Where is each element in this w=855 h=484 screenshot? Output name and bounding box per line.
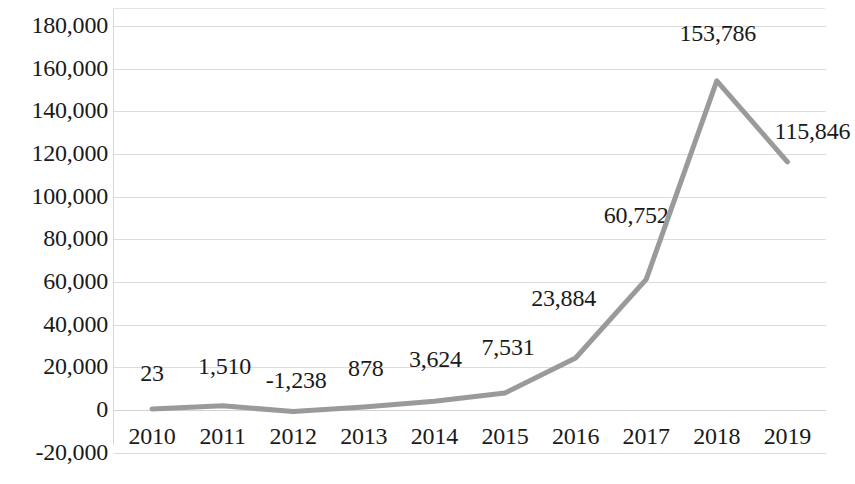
gridline: [114, 239, 826, 240]
y-axis-tick-label: -20,000: [4, 440, 108, 464]
gridline: [114, 69, 826, 70]
x-axis-tick-label: 2019: [742, 424, 832, 448]
data-point-label: 115,846: [742, 119, 855, 143]
data-point-label: 153,786: [648, 21, 788, 45]
y-axis-tick-label: 120,000: [4, 141, 108, 165]
y-axis-tick-label: 40,000: [4, 312, 108, 336]
y-axis-tick-label: 80,000: [4, 226, 108, 250]
gridline: [114, 453, 826, 454]
data-point-label: 7,531: [438, 335, 578, 359]
y-axis: 180,000160,000140,000120,000100,00080,00…: [0, 0, 108, 484]
gridline: [114, 154, 826, 155]
y-axis-tick-label: 180,000: [4, 13, 108, 37]
data-point-label: 23,884: [494, 286, 634, 310]
y-axis-tick-label: 140,000: [4, 98, 108, 122]
gridline: [114, 325, 826, 326]
gridline: [114, 197, 826, 198]
y-axis-tick-label: 60,000: [4, 269, 108, 293]
gridline: [114, 111, 826, 112]
gridline: [114, 282, 826, 283]
data-point-label: 60,752: [566, 203, 706, 227]
y-axis-tick-label: 160,000: [4, 56, 108, 80]
y-axis-tick-label: 100,000: [4, 184, 108, 208]
y-axis-tick-label: 0: [4, 397, 108, 421]
zero-gridline: [114, 410, 826, 411]
